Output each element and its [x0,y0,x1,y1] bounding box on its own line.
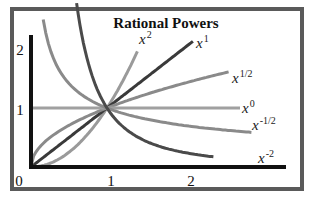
y-tick-2: 2 [16,42,24,58]
x-tick-1: 1 [107,173,115,189]
curve-x-1-2 [31,72,229,167]
curve-label: x2 [138,29,152,47]
curve-label: x-1/2 [251,115,276,133]
curve-label: x-2 [257,148,274,166]
curve-label: x1 [195,33,209,51]
x-tick-2: 2 [187,173,195,189]
curve-label: x1/2 [231,68,252,86]
x-tick-0: 0 [15,173,23,189]
chart-plot: Rational Powers x2x1x1/2x0x-1/2x-2 0 1 2… [0,0,314,201]
y-tick-1: 1 [16,102,24,118]
chart-title: Rational Powers [113,15,219,31]
curve-label: x0 [241,98,255,116]
